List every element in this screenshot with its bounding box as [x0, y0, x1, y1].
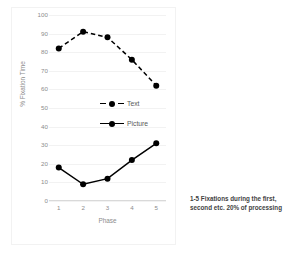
- data-point-text: [129, 57, 135, 63]
- y-tick-label: 10: [14, 179, 48, 185]
- data-point-picture: [80, 181, 86, 187]
- x-tick-label: 5: [155, 204, 158, 211]
- legend-entry-picture[interactable]: Picture: [100, 119, 148, 128]
- data-point-text: [56, 45, 62, 51]
- data-point-picture: [129, 157, 135, 163]
- data-point-text: [105, 34, 111, 40]
- x-tick-label: 1: [57, 204, 60, 211]
- x-axis-title: Phase: [49, 217, 166, 225]
- series-layer: [49, 15, 166, 201]
- legend-entry-text[interactable]: Text: [100, 99, 139, 108]
- x-tick-label: 4: [130, 204, 133, 211]
- x-axis-tick-labels: 12345: [49, 204, 166, 214]
- data-point-picture: [105, 176, 111, 182]
- plot-area: Text Picture: [49, 15, 166, 201]
- y-tick-label: 0: [14, 198, 48, 204]
- x-tick-label: 3: [106, 204, 109, 211]
- y-axis-title: % Fixation Time: [19, 36, 27, 132]
- annotation-line-1: 1-5 Fixations during the first,: [190, 194, 296, 203]
- data-point-text: [153, 83, 159, 89]
- data-point-picture: [56, 165, 62, 171]
- y-tick-label: 20: [14, 161, 48, 167]
- annotation-line-2: second etc. 20% of processing: [190, 203, 296, 212]
- legend-swatch-text-dashed: [100, 99, 124, 108]
- legend-swatch-picture-solid: [100, 119, 124, 128]
- legend-label-text: Text: [127, 99, 139, 108]
- data-point-picture: [153, 140, 159, 146]
- y-tick-label: 30: [14, 142, 48, 148]
- y-axis-tick-labels: 0102030405060708090100: [12, 15, 48, 201]
- legend-label-picture: Picture: [127, 119, 148, 128]
- gridline: [49, 201, 166, 202]
- chart-annotation: 1-5 Fixations during the first, second e…: [190, 194, 296, 212]
- data-point-text: [80, 29, 86, 35]
- y-tick-label: 100: [14, 12, 48, 18]
- x-tick-label: 2: [81, 204, 84, 211]
- chart-figure: 0102030405060708090100 Text Picture 1234…: [11, 7, 176, 245]
